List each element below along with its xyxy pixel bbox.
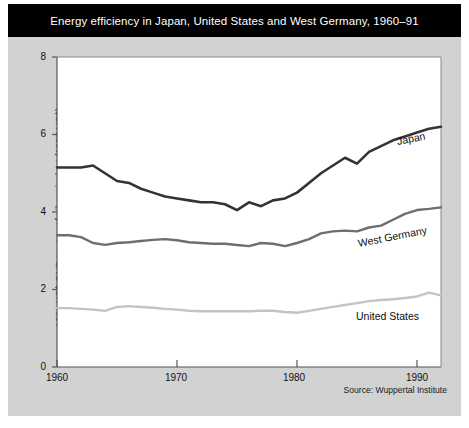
series-label-united-states: United States bbox=[356, 310, 419, 322]
plot-area-wrapper: 1000 US$ GNP per ton of oil equivalent (… bbox=[0, 0, 469, 428]
figure-root: Energy efficiency in Japan, United State… bbox=[0, 0, 469, 428]
line-chart-plot bbox=[0, 0, 469, 428]
source-note: Source: Wuppertal Institute bbox=[344, 385, 448, 395]
